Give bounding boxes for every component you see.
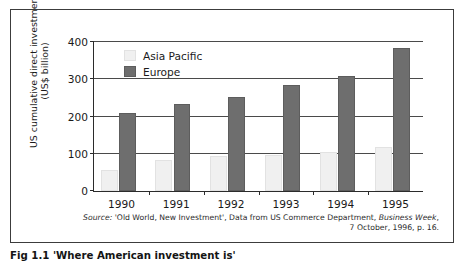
legend-item: Asia Pacific — [124, 49, 202, 62]
x-tick-mark — [368, 191, 369, 195]
legend-label: Europe — [143, 66, 180, 78]
source-line1-rest: 'Old World, New Investment', Data from U… — [112, 213, 378, 222]
x-tick-label: 1991 — [149, 198, 204, 210]
chart-legend: Asia PacificEurope — [124, 49, 202, 78]
legend-item: Europe — [124, 65, 202, 78]
bar-asia-pacific — [101, 170, 118, 191]
y-tick-label: 200 — [68, 111, 88, 123]
x-tick-mark — [313, 191, 314, 195]
x-tick-mark — [204, 191, 205, 195]
bar-europe — [393, 48, 410, 191]
plot-area: 0100200300400 199019911992199319941995 A… — [93, 42, 423, 192]
bar-asia-pacific — [265, 155, 282, 191]
y-tick-label: 0 — [81, 185, 88, 197]
source-line1-tail: , — [437, 213, 439, 222]
bar-europe — [119, 113, 136, 191]
bar-europe — [283, 85, 300, 191]
figure-root: US cumulative direct investment (US$ bil… — [0, 0, 466, 261]
bar-asia-pacific — [320, 152, 337, 191]
source-note: Source: 'Old World, New Investment', Dat… — [71, 213, 439, 234]
figure-caption: Fig 1.1 'Where American investment is' — [10, 250, 456, 261]
x-tick-label: 1995 — [368, 198, 423, 210]
bar-europe — [228, 97, 245, 191]
y-tick-label: 100 — [68, 148, 88, 160]
bar-group — [368, 42, 423, 191]
plot-wrapper: 0100200300400 199019911992199319941995 A… — [93, 42, 423, 192]
bar-group — [313, 42, 368, 191]
x-tick-mark — [259, 191, 260, 195]
source-publication: Business Week — [379, 213, 437, 222]
bar-asia-pacific — [155, 160, 172, 191]
y-tick-label: 400 — [68, 36, 88, 48]
bar-group — [258, 42, 313, 191]
bar-asia-pacific — [210, 156, 227, 191]
x-tick-label: 1994 — [313, 198, 368, 210]
source-label: Source: — [83, 213, 112, 222]
bar-europe — [174, 104, 191, 191]
bar-asia-pacific — [375, 147, 392, 191]
y-axis-title: US cumulative direct investment (US$ bil… — [25, 0, 53, 146]
chart-frame: US cumulative direct investment (US$ bil… — [10, 9, 454, 243]
bar-group — [204, 42, 259, 191]
x-tick-label: 1993 — [258, 198, 313, 210]
y-tick-label: 300 — [68, 73, 88, 85]
source-note-line2: 7 October, 1996, p. 16. — [71, 223, 439, 233]
source-note-line1: Source: 'Old World, New Investment', Dat… — [71, 213, 439, 223]
y-axis-title-line2: (US$ billion) — [39, 42, 50, 99]
x-tick-label: 1992 — [204, 198, 259, 210]
legend-label: Asia Pacific — [143, 50, 202, 62]
y-axis-title-line1: US cumulative direct investment — [28, 0, 39, 148]
legend-swatch-europe — [124, 66, 136, 77]
x-tick-label: 1990 — [94, 198, 149, 210]
x-axis-labels: 199019911992199319941995 — [94, 198, 423, 210]
x-tick-mark — [149, 191, 150, 195]
legend-swatch-asia-pacific — [124, 50, 136, 61]
bar-europe — [338, 76, 355, 191]
